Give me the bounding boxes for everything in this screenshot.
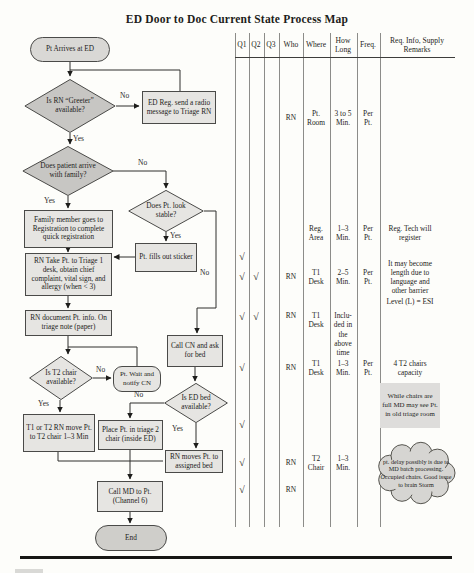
q2-check: √ [249, 262, 264, 292]
decision-ed-bed: Is ED bed available? [164, 383, 228, 423]
node-place-pt-triage2: Place Pt. in triage 2 chair (inside ED) [98, 420, 163, 450]
node-family-registration-label: Family member goes to Registration to co… [25, 215, 112, 244]
col-header-q3: Q3 [264, 33, 279, 57]
cell-howlong: Inclu- ded in the above time [330, 311, 356, 357]
table-row: Level (L) = ESI [0, 295, 474, 309]
node-call-md-label: Call MD to Pt. (Channel 6) [98, 487, 162, 507]
node-call-md: Call MD to Pt. (Channel 6) [97, 481, 163, 512]
decision-rn-greeter-label: Is RN “Greeter” available? [32, 96, 108, 116]
cloud-note-label: pt. delay possibly is due to MD batch pr… [380, 445, 452, 501]
node-end: End [95, 525, 167, 551]
node-t1-t2-move: T1 or T2 RN move Pt. to T2 chair 1–3 Min [23, 414, 95, 452]
cell-remarks: Level (L) = ESI [378, 295, 442, 309]
cell-howlong: 1–3 Min. [331, 355, 355, 381]
col-header-q2: Q2 [249, 33, 264, 57]
node-pt-wait-notify-cn: Pt. Wait and notify CN [113, 366, 161, 392]
node-pt-wait-notify-cn-label: Pt. Wait and notify CN [114, 369, 160, 388]
cell-howlong: 2–5 Min. [331, 262, 355, 292]
col-header-howlong: How Long [330, 33, 356, 57]
cell-where: T1 Desk [304, 355, 328, 381]
edge-label-stable-yes: Yes [170, 231, 181, 240]
decision-pt-look-stable-label: Does Pt. look stable? [136, 201, 196, 221]
cell-where: T2 Chair [304, 450, 328, 476]
cell-howlong: 3 to 5 Min. [331, 100, 355, 136]
cloud-note: pt. delay possibly is due to MD batch pr… [376, 441, 456, 505]
cell-who: RN [279, 311, 303, 357]
q1-check: √ [235, 262, 249, 292]
node-rn-document-info-label: RN document Pt. info. On triage note (pa… [26, 313, 111, 333]
cell-remarks: Reg. Tech will register [382, 216, 438, 250]
cell-freq: Per Pt. [359, 100, 377, 136]
decision-t2-chair: Is T2 chair available? [29, 356, 93, 400]
decision-rn-greeter: Is RN “Greeter” available? [24, 79, 116, 133]
node-rn-take-triage1-label: RN Take Pt. to Triage 1 desk, obtain chi… [26, 256, 111, 294]
cropped-caption-fragment [15, 569, 43, 573]
note-chairs-full: While chairs are full MD may see Pt. in … [380, 383, 440, 428]
edge-label-greeter-no: No [120, 91, 129, 100]
node-fills-out-sticker-label: Pt. fills out sticker [137, 252, 195, 263]
q2-check: √ [249, 311, 264, 357]
node-place-pt-triage2-label: Place Pt. in triage 2 chair (inside ED) [99, 425, 162, 445]
node-start-label: Pt Arrives at ED [44, 44, 96, 55]
cell-where: Reg. Area [304, 216, 328, 250]
edge-label-stable-no: No [200, 268, 209, 277]
decision-pt-look-stable: Does Pt. look stable? [128, 190, 204, 232]
process-map-page: ED Door to Doc Current State Process Map [0, 0, 474, 573]
node-end-label: End [123, 533, 139, 544]
edge-label-family-yes: Yes [44, 196, 55, 205]
col-header-who: Who [279, 33, 303, 57]
cell-howlong: 1–3 Min. [331, 216, 355, 250]
cell-freq: Per Pt. [359, 216, 377, 250]
node-rn-document-info: RN document Pt. info. On triage note (pa… [25, 310, 112, 336]
cell-who: RN [279, 355, 303, 381]
node-rn-moves-pt-label: RN moves Pt. to assigned bed [166, 452, 222, 472]
col-header-remarks: Req. Info, Supply Remarks [380, 33, 454, 57]
cell-who: RN [279, 450, 303, 476]
node-rn-moves-pt: RN moves Pt. to assigned bed [165, 450, 223, 473]
decision-arrive-with-family-label: Does patient arrive with family? [35, 161, 101, 181]
col-header-freq: Freq. [357, 33, 380, 57]
edge-label-family-no: No [138, 158, 147, 167]
cell-where: T1 Desk [304, 262, 328, 292]
decision-arrive-with-family: Does patient arrive with family? [22, 146, 114, 196]
bottom-rule [20, 556, 452, 559]
cell-who: RN [279, 100, 303, 136]
col-header-where: Where [303, 33, 330, 57]
node-rn-take-triage1: RN Take Pt. to Triage 1 desk, obtain chi… [25, 253, 112, 296]
cell-howlong: 1–3 Min. [331, 450, 355, 476]
cell-where: T1 Desk [304, 311, 328, 357]
col-header-q1: Q1 [235, 33, 249, 57]
node-family-registration: Family member goes to Registration to co… [24, 210, 113, 248]
q1-check: √ [235, 418, 249, 432]
q1-check: √ [235, 483, 249, 497]
edge-label-t2chair-no: No [96, 365, 105, 374]
edge-label-edbed-no: No [134, 390, 143, 399]
node-ed-reg-radio-label: ED Reg. send a radio message to Triage R… [143, 98, 215, 118]
q1-check: √ [235, 311, 249, 357]
decision-t2-chair-label: Is T2 chair available? [35, 368, 87, 388]
cell-freq: Per Pt. [359, 355, 377, 381]
q1-check: √ [235, 450, 249, 476]
node-ed-reg-radio: ED Reg. send a radio message to Triage R… [142, 91, 216, 124]
table-header-underline [235, 57, 455, 58]
node-start: Pt Arrives at ED [30, 37, 110, 62]
node-call-cn-label: Call CN and ask for bed [168, 341, 222, 361]
cell-remarks: 4 T2 chairs capacity [382, 355, 438, 381]
cell-freq: Per Pt. [359, 262, 377, 292]
cell-who: RN [279, 262, 303, 292]
cell-who: RN [279, 483, 303, 497]
node-t1-t2-move-label: T1 or T2 RN move Pt. to T2 chair 1–3 Min [24, 423, 94, 443]
node-fills-out-sticker: Pt. fills out sticker [135, 243, 197, 272]
edge-label-t2chair-yes: Yes [38, 399, 49, 408]
cell-where: Pt. Room [303, 100, 329, 136]
node-call-cn: Call CN and ask for bed [167, 335, 223, 367]
decision-ed-bed-label: Is ED bed available? [170, 393, 222, 413]
edge-label-edbed-yes: Yes [172, 424, 183, 433]
q1-check: √ [235, 355, 249, 381]
edge-label-greeter-yes: Yes [73, 134, 84, 143]
cell-remarks: It may become length due to language and… [382, 262, 438, 292]
